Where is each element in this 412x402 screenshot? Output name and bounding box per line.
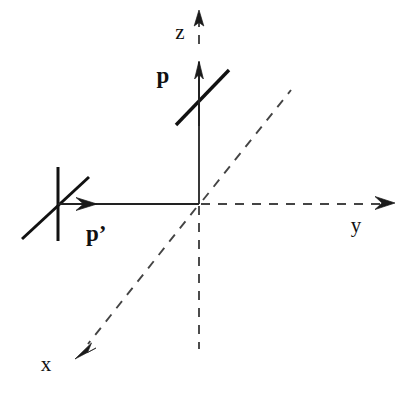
- diagram-canvas: z y x p p’: [0, 0, 412, 402]
- z-axis-label: z: [175, 20, 184, 44]
- y-axis-arrowhead: [375, 197, 395, 210]
- vector-p-prime: p’: [22, 167, 199, 246]
- x-axis: x: [41, 90, 291, 376]
- vector-p: p: [157, 61, 229, 126]
- vector-p-prime-label: p’: [86, 221, 106, 246]
- x-axis-arrowhead: [75, 343, 96, 359]
- z-axis: z: [175, 10, 203, 349]
- vector-p-label: p: [157, 63, 170, 88]
- y-axis-label: y: [351, 213, 362, 237]
- x-axis-label: x: [41, 352, 52, 376]
- x-axis-negative-dashed-line: [203, 90, 291, 200]
- y-axis: y: [201, 197, 395, 238]
- momentum-vector-diagram: z y x p p’: [0, 0, 412, 402]
